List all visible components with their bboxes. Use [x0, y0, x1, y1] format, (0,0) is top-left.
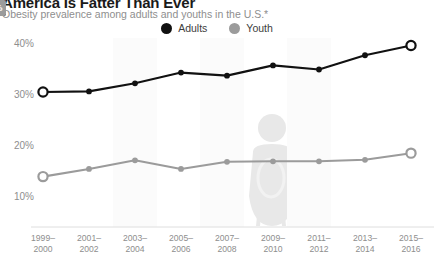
data-point[interactable] [316, 158, 322, 164]
data-point[interactable] [86, 89, 92, 95]
y-axis-tick-label: 20% [4, 140, 34, 151]
x-axis-tick-label: 1999–2000 [20, 233, 66, 254]
data-point[interactable] [316, 67, 322, 73]
data-point[interactable] [406, 41, 415, 50]
data-point[interactable] [406, 149, 415, 158]
x-axis-tick-label: 2013–2014 [342, 233, 388, 254]
data-point[interactable] [362, 52, 368, 58]
x-axis-tick-label: 2011–2012 [296, 233, 342, 254]
x-axis-tick-label: 2005–2006 [158, 233, 204, 254]
x-axis-tick-label: 2009–2010 [250, 233, 296, 254]
x-axis-tick-label: 2015–2016 [388, 233, 434, 254]
chart-root: America Is Fatter Than Ever Obesity prev… [0, 0, 434, 264]
value-badge: 18.5% [0, 0, 6, 16]
plot-area [0, 0, 434, 264]
data-point[interactable] [132, 157, 138, 163]
data-point[interactable] [132, 80, 138, 86]
x-axis-tick-label: 2001–2002 [66, 233, 112, 254]
data-point[interactable] [270, 63, 276, 69]
data-point[interactable] [86, 166, 92, 172]
y-axis-tick-label: 10% [4, 191, 34, 202]
data-point[interactable] [270, 158, 276, 164]
data-point[interactable] [178, 70, 184, 76]
chart-canvas [0, 0, 434, 264]
data-point[interactable] [178, 166, 184, 172]
data-point[interactable] [38, 172, 47, 181]
y-axis-tick-label: 40% [4, 38, 34, 49]
data-point[interactable] [362, 157, 368, 163]
data-point[interactable] [224, 73, 230, 79]
y-axis-tick-label: 30% [4, 89, 34, 100]
data-point[interactable] [224, 159, 230, 165]
x-axis-tick-label: 2003–2004 [112, 233, 158, 254]
x-axis-tick-label: 2007–2008 [204, 233, 250, 254]
data-point[interactable] [38, 87, 47, 96]
